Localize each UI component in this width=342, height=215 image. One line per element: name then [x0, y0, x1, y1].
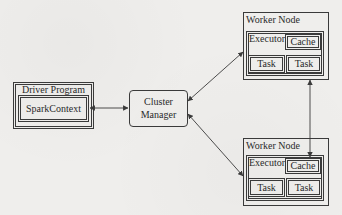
connection-arrows: [0, 0, 342, 215]
arrow-cluster-worker2: [188, 114, 243, 176]
arrow-cluster-worker1: [188, 52, 243, 101]
